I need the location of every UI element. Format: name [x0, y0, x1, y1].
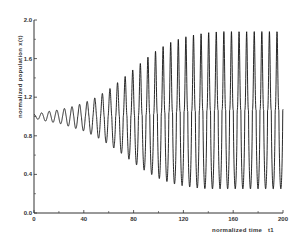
y-axis-label: normalized population x(t): [17, 35, 23, 118]
x-tick-label: 120: [178, 216, 189, 222]
y-tick-label: 0.0: [24, 210, 33, 216]
y-tick-label: 1.2: [24, 94, 33, 100]
y-tick-label: 1.6: [24, 56, 33, 62]
x-axis-symbol: t1: [268, 227, 274, 233]
x-axis-label: normalized time: [212, 227, 263, 233]
line-chart: 0.00.40.81.21.62.004080120160200 normali…: [0, 0, 297, 240]
x-tick-label: 80: [130, 216, 137, 222]
y-tick-label: 2.0: [24, 17, 33, 23]
x-tick-label: 40: [80, 216, 87, 222]
x-tick-label: 160: [228, 216, 239, 222]
population-curve: [34, 32, 283, 189]
y-tick-label: 0.4: [24, 171, 33, 177]
x-tick-label: 0: [32, 216, 36, 222]
y-tick-label: 0.8: [24, 133, 33, 139]
x-tick-label: 200: [278, 216, 289, 222]
